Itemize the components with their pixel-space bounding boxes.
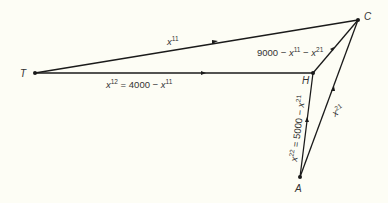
flow-network-diagram: T H C A x11 x12 = 4000 − x11 9000 − x11 … (0, 0, 388, 203)
node-t (33, 71, 37, 75)
edge-a-c (300, 20, 358, 177)
arrow-t-h-icon (201, 71, 206, 75)
node-label-a: A (294, 183, 302, 194)
node-h (311, 71, 315, 75)
arrow-a-h-icon (305, 117, 309, 122)
edge-label-a-c: x21 (328, 102, 346, 119)
node-label-c: C (364, 11, 372, 22)
edge-label-t-c: x11 (166, 35, 179, 47)
edge-label-h-c: 9000 − x11 − x21 (257, 46, 324, 58)
edge-label-a-h: x22 = 5000 − x21 (287, 94, 307, 163)
node-label-t: T (20, 68, 27, 79)
node-c (356, 18, 360, 22)
edge-label-t-h: x12 = 4000 − x11 (105, 78, 173, 90)
node-a (298, 175, 302, 179)
node-label-h: H (302, 75, 310, 86)
